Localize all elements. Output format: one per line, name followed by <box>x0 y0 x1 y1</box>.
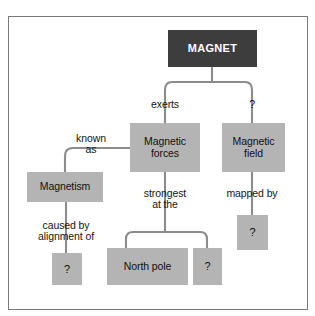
node-blank-pole[interactable]: ? <box>193 248 222 285</box>
concept-map-diagram: MAGNET Magnetic forces Magnetic field Ma… <box>0 0 315 316</box>
edge-label-strongest-at-the: strongest at the <box>130 188 200 211</box>
node-north-pole[interactable]: North pole <box>107 248 188 285</box>
edge-label-caused-by-alignment-of: caused by alignment of <box>24 220 108 243</box>
edge-label-known-as: known as <box>63 133 119 156</box>
node-blank-mapped-by[interactable]: ? <box>237 215 268 250</box>
edge-label-exerts: exerts <box>133 99 197 110</box>
node-magnetism[interactable]: Magnetism <box>27 172 103 202</box>
edge-label-mapped-by: mapped by <box>217 188 287 199</box>
node-blank-alignment[interactable]: ? <box>52 253 82 285</box>
node-magnetic-field[interactable]: Magnetic field <box>222 123 285 172</box>
edge-label-magnet-field: ? <box>237 99 267 110</box>
node-magnetic-forces[interactable]: Magnetic forces <box>130 123 200 172</box>
node-magnet[interactable]: MAGNET <box>168 30 257 67</box>
